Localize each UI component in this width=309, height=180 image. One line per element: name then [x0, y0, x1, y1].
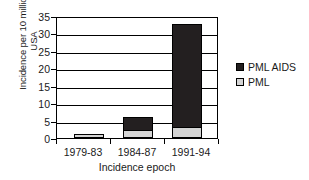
chart-container: Incidence per 10 million USA 35 30 25 20… [0, 0, 309, 180]
bar-1979-83 [74, 134, 104, 139]
bar-segment-pml-aids-1984-87 [123, 117, 153, 130]
bar-1984-87 [123, 117, 153, 138]
legend-swatch-pml-aids-icon [236, 63, 244, 71]
x-tick-mark-0 [56, 139, 57, 144]
y-tick-label-30: 30 [10, 29, 50, 39]
x-tick-mark-2 [164, 139, 165, 144]
x-axis-title: Incidence epoch [56, 161, 218, 173]
y-tick-label-10: 10 [10, 99, 50, 109]
y-tick-label-5: 5 [10, 117, 50, 127]
plot-area [56, 17, 218, 139]
legend-label-pml: PML [248, 77, 270, 88]
x-tick-label-1979-83: 1979-83 [53, 146, 113, 158]
bar-1991-94 [172, 24, 202, 138]
y-tick-label-20: 20 [10, 64, 50, 74]
legend-item-pml-aids: PML AIDS [236, 61, 296, 73]
y-tick-label-15: 15 [10, 82, 50, 92]
x-tick-mark-1 [110, 139, 111, 144]
legend-label-pml-aids: PML AIDS [248, 62, 296, 73]
y-tick-label-25: 25 [10, 47, 50, 57]
x-tick-mark-3 [218, 139, 219, 144]
y-tick-label-0: 0 [10, 134, 50, 144]
x-tick-label-1984-87: 1984-87 [107, 146, 167, 158]
y-tick-label-35: 35 [10, 12, 50, 22]
legend-swatch-pml-icon [236, 78, 244, 86]
bar-segment-pml-1979-83 [74, 134, 104, 139]
bar-segment-pml-1991-94 [172, 127, 202, 139]
legend-item-pml: PML [236, 76, 296, 88]
bar-segment-pml-aids-1991-94 [172, 24, 202, 127]
x-tick-label-1991-94: 1991-94 [161, 146, 221, 158]
legend: PML AIDS PML [236, 61, 296, 88]
bar-segment-pml-1984-87 [123, 130, 153, 138]
